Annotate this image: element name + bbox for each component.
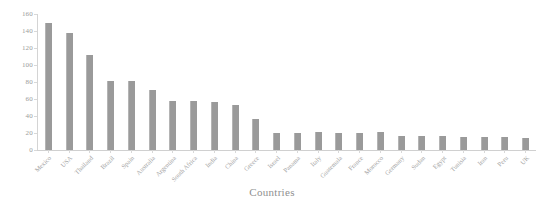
y-axis-tick-label: 120 [3, 45, 33, 52]
bar-slot [308, 14, 329, 150]
bar [86, 55, 93, 150]
y-axis-tick-mark [34, 150, 37, 151]
bar [377, 132, 384, 150]
bar [169, 101, 176, 150]
bar [107, 81, 114, 150]
bar-slot [163, 14, 184, 150]
y-axis-tick-labels: 160140120100806040200 [0, 14, 33, 151]
bar [418, 136, 425, 150]
y-axis-tick-mark [34, 31, 37, 32]
y-axis-tick-mark [34, 65, 37, 66]
bar [315, 132, 322, 150]
y-axis-tick-mark [34, 133, 37, 134]
bar-slot [59, 14, 80, 150]
y-axis-tick-mark [34, 116, 37, 117]
bar [66, 33, 73, 150]
bar [232, 105, 239, 150]
y-axis-tick-label: 60 [3, 96, 33, 103]
bar [501, 137, 508, 150]
bar [522, 138, 529, 150]
bar-slot [121, 14, 142, 150]
bar-chart: 160140120100806040200 MexicoUSAThailandB… [0, 0, 544, 208]
bar-slot [100, 14, 121, 150]
bar [439, 136, 446, 150]
bar [211, 102, 218, 150]
bar-slot [266, 14, 287, 150]
bar [460, 137, 467, 150]
bar-slot [370, 14, 391, 150]
bar-slot [515, 14, 536, 150]
bar [190, 101, 197, 150]
y-axis-tick-label: 40 [3, 113, 33, 120]
bar-slot [329, 14, 350, 150]
bar-slot [183, 14, 204, 150]
y-axis-tick-label: 20 [3, 130, 33, 137]
bar-slot [38, 14, 59, 150]
y-axis-tick-label: 0 [3, 147, 33, 154]
bar [128, 81, 135, 150]
bar [252, 119, 259, 150]
y-axis-tick-label: 100 [3, 62, 33, 69]
bar [335, 133, 342, 150]
y-axis-tick-label: 80 [3, 79, 33, 86]
bar [273, 133, 280, 150]
bar-slot [287, 14, 308, 150]
bar-slot [142, 14, 163, 150]
y-axis-tick-mark [34, 14, 37, 15]
bar-slot [246, 14, 267, 150]
bar-slot [80, 14, 101, 150]
x-axis-title: Countries [0, 186, 544, 198]
bar [356, 133, 363, 150]
bar-slot [453, 14, 474, 150]
bar-slot [204, 14, 225, 150]
y-axis-tick-label: 140 [3, 28, 33, 35]
bar [149, 90, 156, 150]
bar [481, 137, 488, 150]
bar-slot [349, 14, 370, 150]
y-axis-tick-mark [34, 82, 37, 83]
bar-slot [225, 14, 246, 150]
bar [45, 23, 52, 151]
bar-slot [391, 14, 412, 150]
bar [294, 133, 301, 150]
y-axis-tick-mark [34, 99, 37, 100]
bar [398, 136, 405, 150]
bar-series [38, 14, 536, 150]
bar-slot [432, 14, 453, 150]
y-axis-tick-label: 160 [3, 11, 33, 18]
bar-slot [474, 14, 495, 150]
y-axis-tick-mark [34, 48, 37, 49]
bar-slot [495, 14, 516, 150]
bar-slot [412, 14, 433, 150]
